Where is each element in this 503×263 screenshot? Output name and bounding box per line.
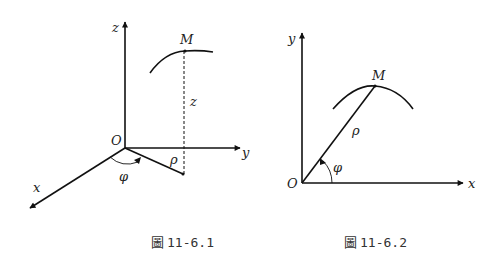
figure-11-6-2: y x O M ρ φ 圖 11-6.2: [287, 31, 476, 250]
point-m: [183, 49, 186, 52]
label-x-axis: x: [33, 180, 41, 195]
caption-number-1: 11-6.1: [167, 235, 214, 250]
label-phi-2: φ: [333, 160, 343, 175]
figure-11-6-1: z y x O M z ρ φ 圖 11-6.1: [30, 20, 250, 250]
label-point-m: M: [179, 32, 194, 47]
label-origin: O: [111, 133, 122, 148]
x-axis: [30, 148, 125, 208]
diagram-canvas: z y x O M z ρ φ 圖 11-6.1 y x O M ρ φ 圖 1…: [0, 0, 503, 263]
phi-angle-arc: [110, 157, 138, 164]
label-y-axis: y: [241, 145, 250, 160]
label-x-axis-2: x: [468, 176, 476, 191]
label-origin-2: O: [287, 176, 298, 191]
caption-mark-1: 圖: [151, 235, 164, 250]
phi-angle-arc-2: [323, 161, 332, 183]
curve-arc: [150, 51, 213, 73]
point-m-2: [373, 84, 376, 87]
label-z-axis: z: [111, 20, 119, 35]
label-rho: ρ: [169, 152, 178, 167]
caption-number-2: 11-6.2: [360, 235, 407, 250]
label-phi: φ: [119, 169, 129, 184]
label-rho-2: ρ: [351, 123, 360, 138]
label-y-axis-2: y: [287, 31, 296, 46]
label-point-m-2: M: [371, 68, 386, 83]
label-height-z: z: [189, 94, 197, 109]
caption-mark-2: 圖: [344, 235, 357, 250]
